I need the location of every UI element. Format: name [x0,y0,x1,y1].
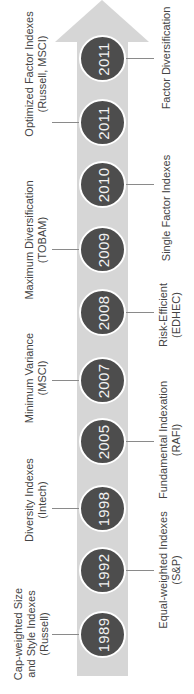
connector-line [52,634,80,635]
milestone-node-1998: 1998 [79,485,126,532]
milestone-year: 2010 [94,167,111,202]
milestone-year: 1989 [94,617,111,652]
label-line: Diversity Indexes [23,458,36,542]
label-line: Minimum Variance [23,333,36,423]
milestone-year: 2011 [94,106,111,139]
label-line: Factor Diversification [160,7,173,110]
milestone-node-2009: 2009 [79,226,126,273]
milestone-node-2011-factor-div: 2011 [79,35,126,82]
connector-line [124,58,154,59]
label-line: (TOBAM) [36,180,49,299]
connector-line [52,249,80,250]
connector-line [52,122,80,123]
label-line: Maximum Diversification [23,180,36,299]
milestone-year: 1998 [94,491,111,526]
milestone-node-1989: 1989 [79,611,126,658]
label-line: (RAFI) [170,381,183,499]
milestone-year: 2007 [94,363,111,398]
label-line: (Russell) [38,588,51,680]
milestone-year: 2005 [94,424,111,459]
connector-line [52,508,80,509]
label-line: (S&P) [170,511,183,628]
milestone-node-2010: 2010 [79,161,126,208]
connector-line [124,441,154,442]
milestone-year: 2009 [94,232,111,267]
milestone-year: 2008 [94,295,111,330]
label-line: Risk-Efficient [157,283,170,347]
milestone-node-1992: 1992 [79,547,126,594]
connector-line [52,380,80,381]
label-line: Single Factor Indexes [160,155,173,261]
connector-line [124,312,154,313]
label-line: (EDHEC) [170,283,183,347]
milestone-node-2011-optimized: 2011 [79,99,126,146]
milestone-node-2008: 2008 [79,289,126,336]
milestone-node-2005: 2005 [79,418,126,465]
label-line: (MSCI) [36,333,49,423]
label-line: Equal-weighted Indexes [157,511,170,628]
label-line: and Style Indexes [25,588,38,680]
label-line: Fundamental Indexation [157,381,170,499]
label-line: Cap-weighted Size [12,588,25,680]
label-line: (Intech) [36,458,49,542]
connector-line [124,184,154,185]
milestone-node-2007: 2007 [79,357,126,404]
connector-line [124,570,154,571]
label-line: Optimized Factor Indexes [23,11,36,136]
milestone-year: 2011 [94,42,111,75]
milestone-year: 1992 [94,553,111,588]
label-line: (Russell, MSCI) [36,11,49,136]
